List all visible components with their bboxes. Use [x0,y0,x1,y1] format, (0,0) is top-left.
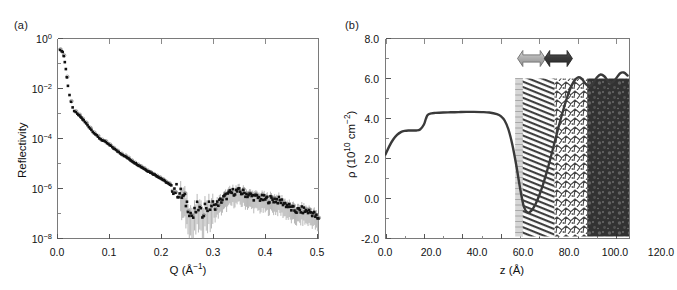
right-double-arrow [544,51,572,67]
panel-a-plot-canvas [0,0,340,290]
figure-root: (a) 100 10−2 10−4 10−6 10−8 0.0 0.1 0.2 … [0,0,677,290]
left-double-arrow [518,51,546,67]
panel-b-density-profile: (b) 8.0 6.0 4.0 2.0 0.0 -2.0 0.0 20.0 40… [337,0,677,290]
panel-a-reflectivity: (a) 100 10−2 10−4 10−6 10−8 0.0 0.1 0.2 … [0,0,340,290]
panel-a-open-markers [59,48,321,220]
panel-a-errorbars [181,181,319,238]
md-snapshot-overlay [515,79,629,237]
panel-b-plot-canvas [337,0,677,290]
